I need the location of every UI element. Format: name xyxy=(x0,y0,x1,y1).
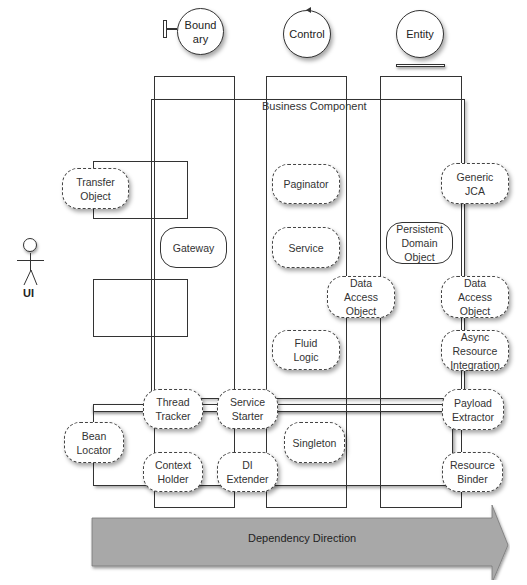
actor-arms-icon xyxy=(17,260,44,261)
entity-base-icon xyxy=(396,64,445,67)
pattern-data-access-object-entity[interactable]: Data Access Object xyxy=(441,276,509,318)
ui-actor: UI xyxy=(15,238,45,303)
pattern-data-access-object-control[interactable]: Data Access Object xyxy=(327,276,395,318)
pattern-persistent-domain-object[interactable]: Persistent Domain Object xyxy=(386,222,453,264)
ui-adapter-box-bottom xyxy=(93,279,188,337)
pattern-di-extender[interactable]: DI Extender xyxy=(217,452,278,492)
actor-legs-icon xyxy=(22,270,40,286)
pattern-fluid-logic[interactable]: Fluid Logic xyxy=(272,330,340,370)
business-component-label: Business Component xyxy=(262,100,367,112)
pattern-context-holder[interactable]: Context Holder xyxy=(143,452,203,492)
pattern-thread-tracker[interactable]: Thread Tracker xyxy=(143,389,203,429)
pattern-async-resource-integration[interactable]: Async Resource Integration xyxy=(441,330,509,371)
entity-circle: Entity xyxy=(396,10,444,58)
boundary-circle: Bound ary xyxy=(177,8,224,55)
pattern-bean-locator[interactable]: Bean Locator xyxy=(64,422,124,463)
dependency-direction-label: Dependency Direction xyxy=(248,532,356,544)
actor-label: UI xyxy=(23,287,34,299)
pattern-resource-binder[interactable]: Resource Binder xyxy=(442,452,503,492)
pattern-service[interactable]: Service xyxy=(272,227,340,268)
boundary-stereotype: Bound ary xyxy=(163,8,223,63)
actor-head-icon xyxy=(23,238,37,252)
control-arrow-icon xyxy=(306,7,311,13)
actor-body-icon xyxy=(30,253,31,271)
pattern-service-starter[interactable]: Service Starter xyxy=(217,389,278,429)
pattern-gateway[interactable]: Gateway xyxy=(160,227,227,268)
control-circle: Control xyxy=(283,10,331,58)
pattern-transfer-object[interactable]: Transfer Object xyxy=(62,168,129,209)
pattern-generic-jca[interactable]: Generic JCA xyxy=(441,163,509,204)
pattern-singleton[interactable]: Singleton xyxy=(284,422,345,463)
pattern-payload-extractor[interactable]: Payload Extractor xyxy=(442,389,504,430)
pattern-paginator[interactable]: Paginator xyxy=(272,164,340,204)
boundary-bar-icon xyxy=(163,20,167,38)
